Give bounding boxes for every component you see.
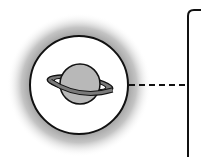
diagram-canvas — [0, 0, 201, 157]
callout-panel — [188, 10, 201, 157]
diagram — [0, 0, 201, 157]
